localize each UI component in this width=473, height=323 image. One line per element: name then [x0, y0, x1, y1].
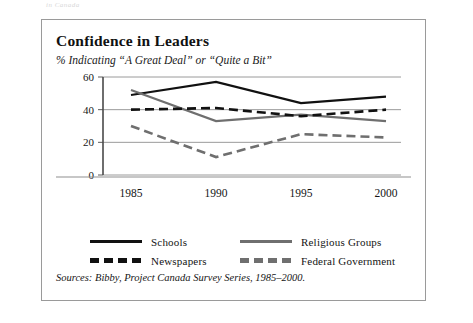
running-head: in Canada: [46, 1, 80, 9]
chart-plot-area: 0204060 1985199019952000: [56, 72, 411, 227]
x-axis-tick-label: 1985: [120, 187, 143, 199]
legend-label-newspapers: Newspapers: [151, 255, 207, 267]
legend-entry-schools: Schools: [90, 232, 240, 251]
legend-swatch-solid-black-icon: [90, 240, 142, 243]
x-axis-tick-label: 1990: [205, 187, 228, 199]
series-line-schools: [131, 82, 386, 103]
figure-container: Confidence in Leaders % Indicating “A Gr…: [41, 19, 426, 301]
figure-source-note: Sources: Bibby, Project Canada Survey Se…: [56, 272, 305, 283]
chart-legend: Schools Religious Groups Newspapers Fede…: [90, 232, 420, 272]
legend-swatch-dashed-gray-icon: [240, 258, 292, 263]
legend-row-2: Newspapers Federal Government: [90, 251, 420, 270]
y-axis-tick-label: 20: [83, 136, 95, 148]
line-chart-svg: 0204060 1985199019952000: [56, 72, 411, 227]
y-axis-tick-label: 40: [83, 104, 95, 116]
x-axis-tick-label: 1995: [290, 187, 313, 199]
legend-label-schools: Schools: [151, 236, 187, 248]
legend-entry-federal-government: Federal Government: [240, 251, 420, 270]
legend-swatch-dashed-black-icon: [90, 258, 142, 263]
figure-subtitle: % Indicating “A Great Deal” or “Quite a …: [56, 54, 272, 66]
series-line-federal-government: [131, 126, 386, 157]
data-series-group: [131, 82, 386, 157]
series-line-religious-groups: [131, 90, 386, 121]
y-axis-tick-label: 60: [83, 72, 95, 83]
figure-title: Confidence in Leaders: [56, 32, 209, 50]
axes-group: [56, 77, 411, 177]
legend-label-religious-groups: Religious Groups: [301, 236, 382, 248]
legend-swatch-solid-gray-icon: [240, 240, 292, 243]
legend-label-federal-government: Federal Government: [301, 255, 395, 267]
legend-entry-newspapers: Newspapers: [90, 251, 240, 270]
x-axis-labels-group: 1985199019952000: [120, 187, 398, 199]
legend-row-1: Schools Religious Groups: [90, 232, 420, 251]
y-axis-tick-label: 0: [89, 169, 95, 181]
x-axis-tick-label: 2000: [375, 187, 398, 199]
legend-entry-religious-groups: Religious Groups: [240, 232, 420, 251]
y-axis-labels-group: 0204060: [83, 72, 95, 181]
